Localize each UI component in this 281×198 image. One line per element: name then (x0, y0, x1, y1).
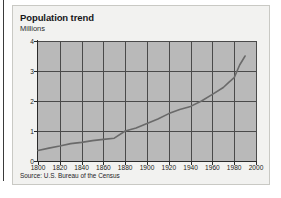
x-axis-tick-mark (60, 161, 61, 165)
x-axis-tick-label: 1820 (52, 164, 67, 171)
chart-unit-label: Millions (20, 24, 45, 33)
series-polyline (38, 56, 245, 151)
x-axis-tick-mark (82, 161, 83, 165)
x-axis-tick-label: 1980 (227, 164, 242, 171)
x-axis-tick-label: 1840 (74, 164, 89, 171)
x-axis-tick-mark (147, 161, 148, 165)
chart-card: Population trend Millions 01234 18001820… (12, 5, 270, 185)
x-axis-tick-mark (169, 161, 170, 165)
x-axis-tick-label: 1860 (96, 164, 111, 171)
x-axis-tick-label: 2000 (249, 164, 264, 171)
x-axis-tick-mark (38, 161, 39, 165)
chart-source-caption: Source: U.S. Bureau of the Census (20, 172, 120, 179)
x-axis-tick-label: 1960 (205, 164, 220, 171)
x-axis-tick-mark (234, 161, 235, 165)
x-axis-tick-label: 1920 (161, 164, 176, 171)
x-axis-tick-mark (191, 161, 192, 165)
page-background: Population trend Millions 01234 18001820… (0, 0, 281, 198)
grid-line-vertical (256, 41, 257, 161)
page-title: Population trend (20, 12, 94, 23)
x-axis-tick-label: 1800 (31, 164, 46, 171)
chart-plot-area: 01234 1800182018401860188019001920194019… (38, 41, 256, 161)
x-axis-tick-label: 1940 (183, 164, 198, 171)
page-gutter-rule (3, 0, 4, 181)
x-axis-tick-mark (256, 161, 257, 165)
x-axis-tick-label: 1880 (118, 164, 133, 171)
x-axis-tick-label: 1900 (140, 164, 155, 171)
x-axis-tick-mark (125, 161, 126, 165)
x-axis-tick-mark (212, 161, 213, 165)
series-line-population (38, 41, 256, 161)
x-axis-tick-mark (103, 161, 104, 165)
